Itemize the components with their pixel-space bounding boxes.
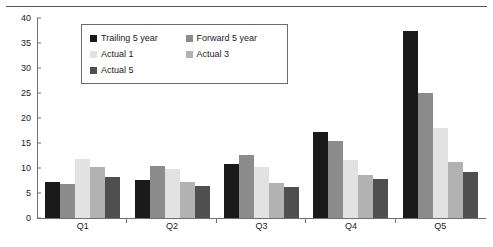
y-tick-label: 30 (0, 63, 37, 73)
bar[interactable] (373, 179, 388, 218)
bar[interactable] (75, 159, 90, 218)
bar[interactable] (448, 162, 463, 218)
bar[interactable] (358, 175, 373, 219)
top-divider-rule (6, 6, 487, 7)
bar[interactable] (224, 164, 239, 218)
legend-item-label: Actual 3 (197, 49, 230, 59)
legend-swatch-icon (186, 51, 193, 58)
y-tick-label: 20 (0, 113, 37, 123)
bar[interactable] (90, 167, 105, 218)
legend-item-label: Actual 1 (101, 49, 134, 59)
x-axis-label-q3: Q3 (217, 221, 306, 231)
legend-item[interactable]: Forward 5 year (186, 33, 282, 43)
x-axis-label-q2: Q2 (127, 221, 216, 231)
y-tick-label: 5 (0, 188, 37, 198)
x-axis-label-q4: Q4 (306, 221, 395, 231)
y-tick-label: 15 (0, 138, 37, 148)
bar[interactable] (418, 93, 433, 218)
x-axis-line (37, 218, 486, 219)
bar[interactable] (105, 177, 120, 218)
legend-item-label: Forward 5 year (197, 33, 258, 43)
bar-chart: 0510152025303540 Q1Q2Q3Q4Q5 Trailing 5 y… (0, 0, 493, 247)
legend-item-label: Trailing 5 year (101, 33, 158, 43)
x-axis-label-q1: Q1 (38, 221, 127, 231)
bar[interactable] (343, 160, 358, 219)
bar[interactable] (239, 155, 254, 219)
bar[interactable] (433, 128, 448, 218)
legend-swatch-icon (90, 67, 97, 74)
bar-group-q4 (306, 18, 395, 218)
bar[interactable] (284, 187, 299, 219)
x-axis-label-q5: Q5 (396, 221, 485, 231)
legend-swatch-icon (186, 35, 193, 42)
legend-item-label: Actual 5 (101, 65, 134, 75)
chart-legend: Trailing 5 yearForward 5 yearActual 1Act… (81, 24, 288, 84)
bar[interactable] (45, 182, 60, 219)
legend-swatch-icon (90, 35, 97, 42)
bar[interactable] (180, 182, 195, 219)
bar[interactable] (254, 167, 269, 218)
bar[interactable] (328, 141, 343, 219)
bar[interactable] (165, 169, 180, 218)
bar-group-q5 (396, 18, 485, 218)
legend-item[interactable]: Actual 5 (90, 65, 186, 75)
legend-item[interactable]: Actual 1 (90, 49, 186, 59)
y-tick-label: 35 (0, 38, 37, 48)
bar[interactable] (463, 172, 478, 219)
legend-item[interactable]: Actual 3 (186, 49, 282, 59)
bar[interactable] (269, 183, 284, 218)
bar[interactable] (150, 166, 165, 219)
y-tick-label: 25 (0, 88, 37, 98)
legend-swatch-icon (90, 51, 97, 58)
bar[interactable] (195, 186, 210, 219)
y-tick-label: 40 (0, 13, 37, 23)
bar[interactable] (403, 31, 418, 219)
bar[interactable] (313, 132, 328, 219)
legend-item[interactable]: Trailing 5 year (90, 33, 186, 43)
bar[interactable] (135, 180, 150, 219)
y-tick-label: 10 (0, 163, 37, 173)
bar[interactable] (60, 184, 75, 218)
x-axis-labels: Q1Q2Q3Q4Q5 (38, 221, 485, 231)
y-tick-label: 0 (0, 213, 37, 223)
